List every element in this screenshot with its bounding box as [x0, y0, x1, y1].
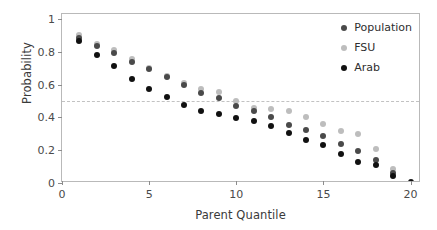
data-point	[198, 90, 204, 96]
y-tick-mark	[58, 52, 62, 53]
data-point	[286, 130, 292, 136]
data-point	[181, 82, 187, 88]
y-tick-label: 0.2	[16, 144, 62, 157]
y-tick-mark	[58, 150, 62, 151]
data-point	[251, 118, 257, 124]
x-tick-mark	[236, 181, 237, 185]
data-point	[286, 122, 292, 128]
data-point	[303, 127, 309, 133]
y-tick-label: 0.8	[16, 45, 62, 58]
data-point	[233, 103, 239, 109]
data-point	[373, 146, 379, 152]
data-point	[251, 108, 257, 114]
scatter-chart-figure: Probability Parent Quantile 00.20.40.60.…	[0, 0, 437, 230]
data-point	[338, 151, 344, 157]
data-point	[198, 108, 204, 114]
y-tick-mark	[58, 19, 62, 20]
data-point	[320, 121, 326, 127]
x-axis-label: Parent Quantile	[61, 208, 420, 222]
legend-item: Population	[341, 21, 412, 34]
data-point	[146, 66, 152, 72]
plot-panel: 00.20.40.60.8105101520 PopulationFSUArab	[61, 13, 420, 182]
y-tick-mark	[58, 85, 62, 86]
data-point	[268, 123, 274, 129]
legend-item: FSU	[341, 41, 412, 54]
legend-marker-icon	[341, 45, 347, 51]
data-point	[355, 131, 361, 137]
data-point	[303, 114, 309, 120]
y-tick-label: 1	[16, 12, 62, 25]
data-point	[338, 141, 344, 147]
legend-label: Population	[354, 21, 412, 34]
legend-marker-icon	[341, 65, 347, 71]
data-point	[164, 74, 170, 80]
data-point	[320, 142, 326, 148]
y-tick-label: 0.6	[16, 78, 62, 91]
reference-line-0.5	[62, 101, 419, 102]
data-point	[390, 173, 396, 179]
data-point	[268, 106, 274, 112]
data-point	[111, 63, 117, 69]
data-point	[216, 95, 222, 101]
x-tick-mark	[323, 181, 324, 185]
data-point	[338, 128, 344, 134]
data-point	[94, 52, 100, 58]
chart-legend: PopulationFSUArab	[341, 21, 412, 74]
data-point	[94, 43, 100, 49]
legend-label: FSU	[354, 41, 375, 54]
data-point	[129, 76, 135, 82]
data-point	[268, 114, 274, 120]
y-tick-label: 0.4	[16, 111, 62, 124]
data-point	[233, 115, 239, 121]
data-point	[355, 159, 361, 165]
data-point	[146, 86, 152, 92]
legend-item: Arab	[341, 61, 412, 74]
data-point	[111, 50, 117, 56]
x-tick-mark	[411, 181, 412, 185]
data-point	[181, 102, 187, 108]
data-point	[216, 111, 222, 117]
data-point	[373, 162, 379, 168]
y-tick-mark	[58, 117, 62, 118]
data-point	[303, 137, 309, 143]
x-tick-mark	[62, 181, 63, 185]
data-point	[286, 108, 292, 114]
data-point	[320, 133, 326, 139]
data-point	[129, 59, 135, 65]
data-point	[164, 94, 170, 100]
data-point	[355, 148, 361, 154]
legend-label: Arab	[354, 61, 380, 74]
data-point	[76, 38, 82, 44]
x-tick-mark	[149, 181, 150, 185]
legend-marker-icon	[341, 25, 347, 31]
